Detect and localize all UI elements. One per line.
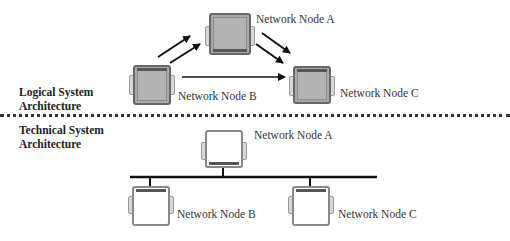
arrow-a-to-c-2: [256, 44, 283, 63]
logical-node-b-label: Network Node B: [178, 90, 257, 102]
section-divider: [0, 114, 510, 117]
logical-node-c-label: Network Node C: [340, 87, 419, 99]
logical-node-a-label: Network Node A: [256, 13, 335, 25]
connectors: [0, 0, 510, 241]
technical-node-a-label: Network Node A: [254, 129, 333, 141]
technical-node-b-label: Network Node B: [177, 208, 256, 220]
technical-node-c[interactable]: [288, 186, 334, 226]
technical-node-c-label: Network Node C: [338, 208, 417, 220]
node-icon: [209, 13, 251, 55]
logical-node-b[interactable]: [129, 65, 175, 105]
technical-node-a[interactable]: [201, 130, 247, 168]
technical-label-line1: Technical System: [19, 123, 104, 137]
logical-architecture-label: Logical System Architecture: [19, 85, 93, 113]
technical-label-line2: Architecture: [19, 137, 104, 151]
node-icon: [205, 130, 243, 168]
node-icon: [132, 186, 170, 226]
technical-node-b[interactable]: [128, 186, 174, 226]
node-icon: [292, 186, 330, 226]
logical-node-c[interactable]: [289, 66, 335, 104]
logical-node-a[interactable]: [205, 13, 255, 55]
node-icon: [133, 65, 171, 105]
logical-label-line2: Architecture: [19, 99, 93, 113]
technical-architecture-label: Technical System Architecture: [19, 123, 104, 151]
logical-label-line1: Logical System: [19, 85, 93, 99]
node-icon: [293, 66, 331, 104]
